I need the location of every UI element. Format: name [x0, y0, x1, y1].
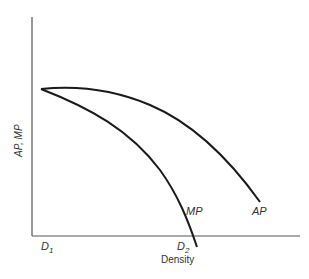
chart: MP AP D1 D2 Density AP, MP	[0, 0, 309, 279]
ap-label: AP	[251, 205, 267, 217]
mp-label: MP	[186, 205, 203, 217]
y-axis-title: AP, MP	[13, 124, 24, 158]
mp-curve	[41, 89, 197, 247]
ap-curve	[41, 88, 260, 202]
d1-tick-label: D1	[41, 240, 53, 255]
d2-tick-label: D2	[177, 240, 190, 255]
x-axis-title: Density	[161, 254, 194, 265]
